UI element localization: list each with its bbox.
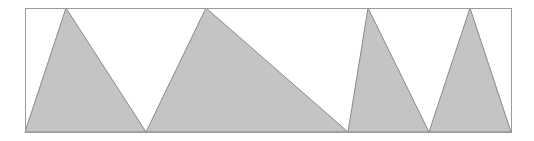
triangle-diagram <box>0 0 534 141</box>
